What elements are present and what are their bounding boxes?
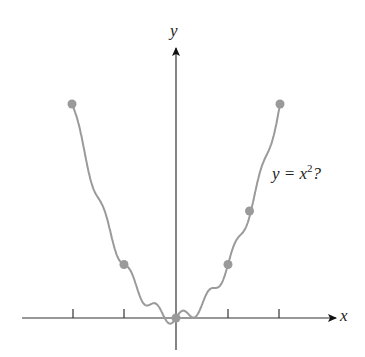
equation-suffix: ? [313, 164, 322, 183]
data-point [276, 100, 285, 109]
data-point [245, 207, 254, 216]
data-point [120, 260, 129, 269]
y-axis-label: y [170, 21, 178, 41]
data-point [224, 260, 233, 269]
equation-annotation: y = x2? [272, 162, 321, 184]
equation-prefix: y = x [272, 164, 307, 183]
data-point [68, 100, 77, 109]
x-axis-label: x [340, 306, 348, 326]
data-point [172, 314, 181, 323]
